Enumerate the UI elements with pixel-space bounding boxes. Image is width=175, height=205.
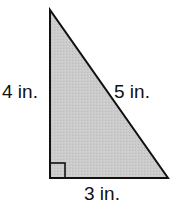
triangle-shape	[50, 10, 168, 178]
hypotenuse-label: 5 in.	[114, 81, 150, 102]
horizontal-leg-label: 3 in.	[84, 183, 120, 204]
right-triangle-diagram: 4 in. 5 in. 3 in.	[0, 0, 175, 205]
vertical-leg-label: 4 in.	[2, 81, 38, 102]
